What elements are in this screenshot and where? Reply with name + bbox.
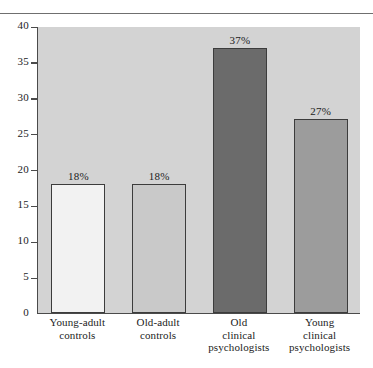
x-axis-labels: Young-adultcontrolsOld-adultcontrolsOldc… (37, 316, 360, 366)
y-axis-tick-label: 5 (23, 270, 29, 282)
y-axis-tick-label: 25 (18, 127, 29, 139)
x-axis-category-line: clinical (199, 329, 280, 342)
x-axis-category-line: Old-adult (118, 316, 199, 329)
x-axis-category-line: Old (199, 316, 280, 329)
x-axis-category-line: controls (118, 329, 199, 342)
x-axis-category-line: Young (279, 316, 360, 329)
x-axis-category-line: clinical (279, 329, 360, 342)
bar: 18% (132, 184, 186, 313)
x-axis-category-label: Old-adultcontrols (118, 316, 199, 341)
bar-value-label: 37% (229, 34, 250, 46)
y-axis-tick-label: 20 (18, 163, 29, 175)
bar-value-label: 27% (310, 105, 331, 117)
x-axis-category-line: psychologists (279, 341, 360, 354)
bar-value-label: 18% (149, 170, 170, 182)
x-axis-category-line: controls (37, 329, 118, 342)
plot-area: 18%18%37%27% (37, 27, 360, 314)
chart-figure: 0510152025303540 18%18%37%27% Young-adul… (0, 0, 373, 368)
bar: 27% (294, 119, 348, 313)
y-axis-tick-label: 35 (18, 55, 29, 67)
y-axis-tick-label: 40 (18, 19, 29, 31)
bar: 37% (213, 48, 267, 313)
x-axis-category-line: psychologists (199, 341, 280, 354)
bar-series: 18%18%37%27% (38, 27, 360, 313)
bar-value-label: 18% (68, 170, 89, 182)
y-axis-tick-label: 15 (18, 198, 29, 210)
y-axis-tick-label: 30 (18, 91, 29, 103)
x-axis-category-label: Oldclinicalpsychologists (199, 316, 280, 354)
x-axis-category-label: Young-adultcontrols (37, 316, 118, 341)
x-axis-category-line: Young-adult (37, 316, 118, 329)
x-axis-category-label: Youngclinicalpsychologists (279, 316, 360, 354)
y-axis-tick-label: 10 (18, 234, 29, 246)
y-axis-tick-label: 0 (23, 306, 29, 318)
y-axis: 0510152025303540 (0, 27, 37, 314)
top-divider-rule (0, 13, 373, 14)
bar: 18% (51, 184, 105, 313)
